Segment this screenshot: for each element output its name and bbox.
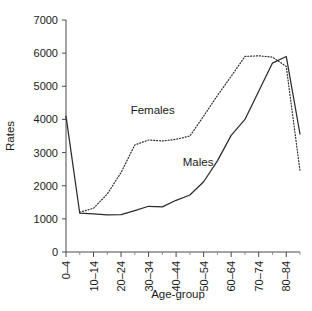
x-axis-ticks: 0–410–1420–2430–3440–4450–5460–6470–7480… [60, 252, 300, 292]
y-tick-label: 5000 [34, 80, 58, 92]
series-annotations: FemalesMales [131, 104, 214, 168]
series-annotation-males: Males [183, 156, 214, 168]
y-axis: 01000200030004000500060007000 Rates [4, 14, 66, 258]
y-axis-title: Rates [4, 121, 16, 151]
series-line-males [66, 56, 300, 214]
x-tick-label: 0–4 [60, 261, 72, 279]
y-tick-label: 6000 [34, 47, 58, 59]
series-line-females [80, 56, 300, 212]
x-tick-label: 60–64 [225, 261, 237, 292]
y-tick-label: 4000 [34, 113, 58, 125]
chart-page: 01000200030004000500060007000 Rates 0–41… [0, 0, 312, 311]
x-tick-label: 50–54 [198, 261, 210, 292]
plot-area [66, 56, 300, 215]
x-axis: 0–410–1420–2430–3440–4450–5460–6470–7480… [60, 252, 300, 300]
x-tick-label: 80–84 [280, 261, 292, 292]
y-tick-label: 1000 [34, 213, 58, 225]
y-axis-ticks: 01000200030004000500060007000 [34, 14, 66, 258]
x-tick-label: 70–74 [253, 261, 265, 292]
x-tick-label: 10–14 [88, 261, 100, 292]
y-tick-label: 2000 [34, 180, 58, 192]
x-tick-label: 40–44 [170, 261, 182, 292]
series-annotation-females: Females [131, 104, 175, 116]
x-tick-label: 30–34 [143, 261, 155, 292]
y-tick-label: 7000 [34, 14, 58, 26]
line-chart: 01000200030004000500060007000 Rates 0–41… [0, 0, 312, 311]
x-axis-title: Age-group [151, 288, 205, 300]
y-tick-label: 0 [52, 246, 58, 258]
x-tick-label: 20–24 [115, 261, 127, 292]
y-tick-label: 3000 [34, 147, 58, 159]
